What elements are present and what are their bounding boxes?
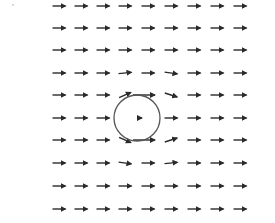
flow-arrow-icon xyxy=(119,72,132,73)
flow-arrow-icon xyxy=(165,72,178,74)
flow-arrow-icon xyxy=(165,162,178,163)
flow-arrow-icon xyxy=(165,138,177,142)
flow-arrow-icon xyxy=(165,93,177,97)
cylinder-circle xyxy=(114,95,160,141)
faint-dot xyxy=(12,4,14,6)
flow-arrows xyxy=(12,4,247,209)
flow-arrow-icon xyxy=(119,162,132,164)
vector-field-diagram xyxy=(0,0,275,223)
